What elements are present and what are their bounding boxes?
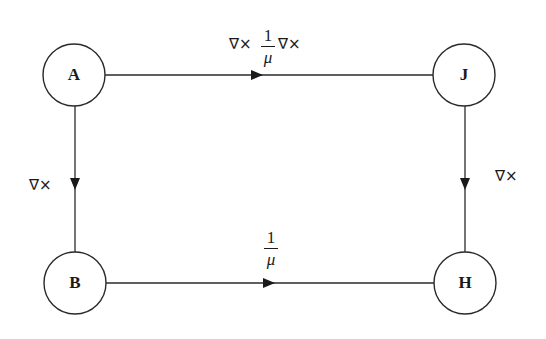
node-h-label: H [445,271,485,295]
inverse-mu-fraction: 1 μ [261,27,275,67]
fraction-numerator: 1 [264,27,273,45]
fraction-numerator: 1 [267,229,276,247]
curl-operator-suffix: ∇× [278,35,301,53]
arrow-right-icon [251,70,263,80]
node-a-label: A [54,63,94,87]
node-j-label: J [444,63,484,87]
fraction-denominator: μ [267,251,276,269]
arrow-right-icon [263,278,275,288]
edge-b-h-label: 1 μ [264,229,278,269]
edge-a-b-label: ∇× [29,176,52,194]
fraction-bar [261,46,275,47]
fraction-denominator: μ [264,49,273,67]
edge-b-to-h [106,278,434,288]
edge-a-to-b [70,106,80,252]
arrow-down-icon [70,178,80,190]
edge-j-h-label: ∇× [495,167,518,185]
node-b-label: B [55,271,95,295]
fraction-bar [264,248,278,249]
maxwell-commutative-diagram: A J B H ∇× 1 μ ∇× ∇× ∇× 1 μ [0,0,546,339]
arrow-down-icon [460,178,470,190]
edge-a-to-j [105,70,433,80]
edge-j-to-h [460,106,470,252]
curl-operator-prefix: ∇× [229,35,252,53]
